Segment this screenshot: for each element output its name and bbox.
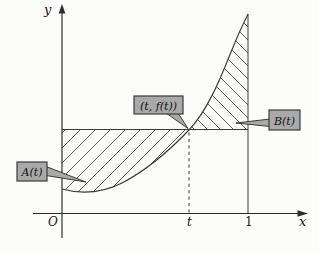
point-callout-pointer [166, 113, 188, 129]
y-axis-arrow-icon [59, 4, 66, 14]
x-axis-label: x [299, 214, 307, 229]
area-a-callout-label: A(t) [21, 166, 43, 179]
region-a-hatched-area [62, 130, 189, 193]
diagram-canvas: y x O t 1 (t, f(t)) A(t) B(t) [0, 0, 319, 253]
one-tick-label: 1 [245, 215, 253, 229]
area-b-callout-label: B(t) [273, 115, 295, 128]
function-area-diagram: y x O t 1 (t, f(t)) A(t) B(t) [0, 0, 319, 253]
y-axis-label: y [43, 2, 52, 17]
t-tick-label: t [187, 215, 192, 229]
point-callout-label: (t, f(t)) [140, 100, 177, 113]
origin-label: O [48, 215, 58, 229]
